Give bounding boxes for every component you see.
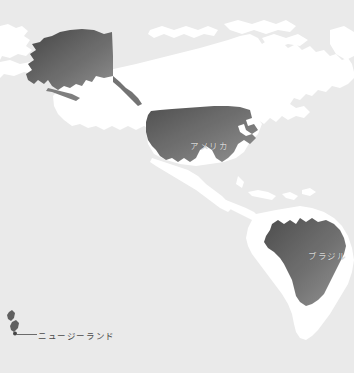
map-canvas: アメリカ ブラジル ニュージーランド: [0, 0, 354, 373]
map-container: アメリカ ブラジル ニュージーランド: [0, 0, 360, 379]
map-graphic: [0, 0, 354, 373]
region-label-newzealand: ニュージーランド: [38, 329, 115, 341]
grain-overlay: [0, 0, 354, 373]
newzealand-leader-line: [16, 334, 37, 335]
